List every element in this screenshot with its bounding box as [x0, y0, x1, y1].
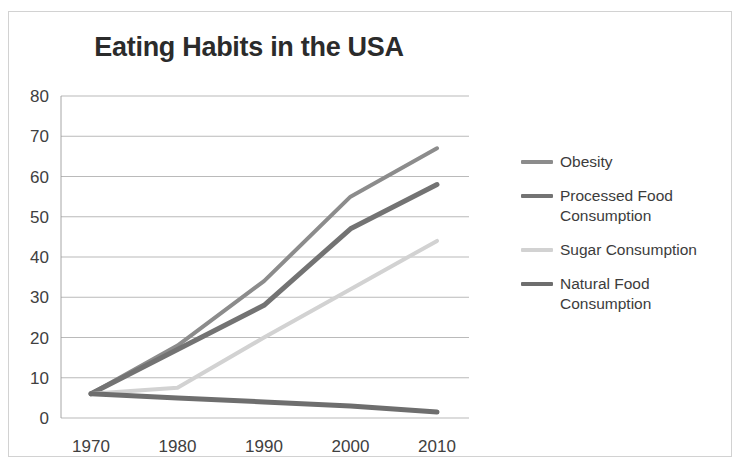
legend-item-label: Obesity [560, 152, 613, 172]
y-axis-tick-label: 50 [30, 208, 49, 227]
legend-color-swatch [521, 194, 553, 198]
y-axis-tick-label: 30 [30, 288, 49, 307]
chart-frame: Eating Habits in the USA 010203040506070… [8, 11, 732, 457]
y-axis-tick-labels: 01020304050607080 [30, 87, 49, 428]
chart-legend: ObesityProcessed Food ConsumptionSugar C… [521, 152, 741, 328]
y-axis-tick-label: 70 [30, 127, 49, 146]
x-axis-tick-label: 1990 [245, 437, 283, 456]
y-axis-tick-label: 60 [30, 168, 49, 187]
x-axis-tick-labels: 19701980199020002010 [72, 437, 456, 456]
x-axis-tick-label: 2000 [332, 437, 370, 456]
legend-item[interactable]: Obesity [521, 152, 741, 172]
y-axis-tick-label: 20 [30, 329, 49, 348]
x-axis-tick-label: 1970 [72, 437, 110, 456]
legend-color-swatch [521, 282, 553, 286]
y-axis-tick-label: 40 [30, 248, 49, 267]
legend-color-swatch [521, 248, 553, 252]
y-axis-tick-label: 80 [30, 87, 49, 106]
legend-item-label: Processed Food Consumption [560, 186, 673, 226]
legend-item[interactable]: Natural Food Consumption [521, 274, 741, 314]
legend-color-swatch [521, 160, 553, 164]
legend-item-label: Natural Food Consumption [560, 274, 651, 314]
y-axis-tick-label: 0 [40, 409, 49, 428]
legend-item[interactable]: Sugar Consumption [521, 240, 741, 260]
data-series-group [91, 148, 437, 412]
series-line-natural-food-consumption [91, 394, 437, 412]
series-line-processed-food-consumption [91, 185, 437, 394]
x-axis-tick-label: 1980 [159, 437, 197, 456]
legend-item-label: Sugar Consumption [560, 240, 697, 260]
legend-item[interactable]: Processed Food Consumption [521, 186, 741, 226]
x-axis-tick-label: 2010 [418, 437, 456, 456]
y-axis-tick-label: 10 [30, 369, 49, 388]
series-line-sugar-consumption [91, 241, 437, 394]
